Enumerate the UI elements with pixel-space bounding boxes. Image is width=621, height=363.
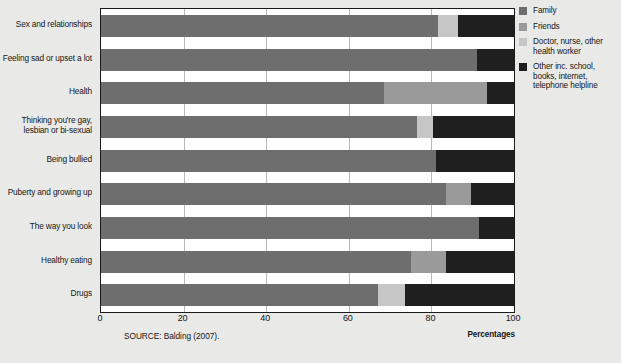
bar-8 xyxy=(101,284,514,306)
bar-segment xyxy=(101,284,378,306)
legend-item: Family xyxy=(519,6,619,16)
bar-segment xyxy=(101,150,436,172)
bar-segment xyxy=(417,116,434,138)
bar-3 xyxy=(101,116,514,138)
chart-legend: FamilyFriendsDoctor, nurse, other health… xyxy=(519,6,619,97)
category-label: Drugs xyxy=(0,289,92,299)
bar-segment xyxy=(101,49,477,71)
bar-1 xyxy=(101,49,514,71)
bar-segment xyxy=(101,251,411,273)
bar-segment xyxy=(101,217,479,239)
bar-segment xyxy=(446,251,514,273)
bar-segment xyxy=(436,150,514,172)
chart-figure: Sex and relationshipsFeeling sad or upse… xyxy=(0,0,621,363)
x-tick-label: 20 xyxy=(178,313,188,323)
bar-segment xyxy=(446,183,471,205)
legend-item: Doctor, nurse, other health worker xyxy=(519,37,619,56)
category-label: Health xyxy=(0,87,92,97)
category-label: Feeling sad or upset a lot xyxy=(0,54,92,64)
source-note: SOURCE: Balding (2007). xyxy=(124,331,219,341)
x-tick-label: 40 xyxy=(260,313,270,323)
bar-segment xyxy=(101,183,446,205)
legend-label: Other inc. school, books, internet, tele… xyxy=(533,62,598,91)
bar-segment xyxy=(438,15,459,37)
legend-swatch-icon xyxy=(519,63,527,71)
x-tick-label: 80 xyxy=(425,313,435,323)
legend-swatch-icon xyxy=(519,23,527,31)
bar-segment xyxy=(101,82,384,104)
legend-label: Friends xyxy=(533,22,560,32)
x-axis: 020406080100 xyxy=(100,313,513,329)
bar-segment xyxy=(479,217,514,239)
category-label: The way you look xyxy=(0,222,92,232)
legend-item: Other inc. school, books, internet, tele… xyxy=(519,62,619,91)
bar-segment xyxy=(471,183,514,205)
plot-inner xyxy=(101,9,514,312)
bar-6 xyxy=(101,217,514,239)
legend-label: Family xyxy=(533,6,557,16)
plot-area xyxy=(100,8,515,313)
legend-label: Doctor, nurse, other health worker xyxy=(533,37,603,56)
x-tick-label: 0 xyxy=(98,313,103,323)
category-label: Thinking you're gay, lesbian or bi-sexua… xyxy=(0,116,92,135)
bar-segment xyxy=(458,15,514,37)
bar-segment xyxy=(384,82,487,104)
bar-segment xyxy=(433,116,514,138)
bar-segment xyxy=(411,251,446,273)
legend-swatch-icon xyxy=(519,7,527,15)
bar-segment xyxy=(405,284,514,306)
bar-segment xyxy=(378,284,405,306)
x-tick-label: 60 xyxy=(343,313,353,323)
bar-2 xyxy=(101,82,514,104)
bar-7 xyxy=(101,251,514,273)
bar-segment xyxy=(487,82,514,104)
bar-segment xyxy=(101,116,417,138)
bar-segment xyxy=(101,15,438,37)
bar-4 xyxy=(101,150,514,172)
category-label: Sex and relationships xyxy=(0,20,92,30)
x-axis-unit-label: Percentages xyxy=(455,330,515,339)
bar-segment xyxy=(477,49,514,71)
legend-item: Friends xyxy=(519,22,619,32)
category-label: Being bullied xyxy=(0,155,92,165)
legend-swatch-icon xyxy=(519,38,527,46)
category-label: Puberty and growing up xyxy=(0,188,92,198)
x-tick-label: 100 xyxy=(506,313,521,323)
bar-5 xyxy=(101,183,514,205)
bar-0 xyxy=(101,15,514,37)
category-axis-labels: Sex and relationshipsFeeling sad or upse… xyxy=(0,8,96,311)
category-label: Healthy eating xyxy=(0,256,92,266)
